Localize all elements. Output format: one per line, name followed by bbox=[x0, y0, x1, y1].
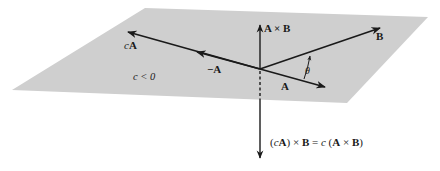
plane bbox=[12, 8, 428, 103]
label-negA: −A bbox=[207, 63, 221, 75]
label-B: B bbox=[376, 30, 384, 42]
cross-product-diagram: cA −A c < 0 A B A × B θ (cA) × B = c (A … bbox=[0, 0, 440, 171]
label-equation: (cA) × B = c (A × B) bbox=[270, 136, 363, 149]
label-cA: cA bbox=[124, 39, 137, 51]
label-theta: θ bbox=[305, 65, 310, 76]
label-cA-vector: A bbox=[129, 39, 137, 51]
label-condition: c < 0 bbox=[133, 71, 156, 82]
label-AxB: A × B bbox=[264, 22, 291, 34]
label-A: A bbox=[281, 80, 289, 92]
